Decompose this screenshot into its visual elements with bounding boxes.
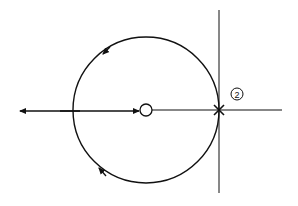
multiplicity-label: 2: [234, 90, 239, 100]
zero-marker: [140, 104, 152, 116]
root-locus-diagram: 2: [0, 0, 298, 206]
